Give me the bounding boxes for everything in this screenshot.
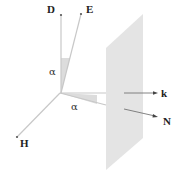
vector-D-tip	[60, 14, 62, 16]
label-D: D	[47, 3, 55, 15]
angle-label-DE: α	[49, 66, 56, 77]
label-N: N	[163, 115, 171, 127]
diagram-svg: D E H k N α α	[0, 0, 185, 179]
plane	[106, 14, 143, 170]
vector-k-arrowhead	[153, 91, 158, 94]
label-k: k	[161, 87, 168, 99]
label-H: H	[20, 137, 29, 149]
vector-N-arrowhead	[153, 114, 159, 118]
angle-label-kN: α	[71, 101, 78, 112]
label-E: E	[86, 3, 93, 15]
vector-E-line	[61, 14, 81, 93]
vector-H-tip	[16, 136, 18, 138]
vector-H-line	[17, 93, 60, 137]
vector-E-tip	[80, 13, 82, 15]
diagram-canvas: D E H k N α α	[0, 0, 185, 179]
